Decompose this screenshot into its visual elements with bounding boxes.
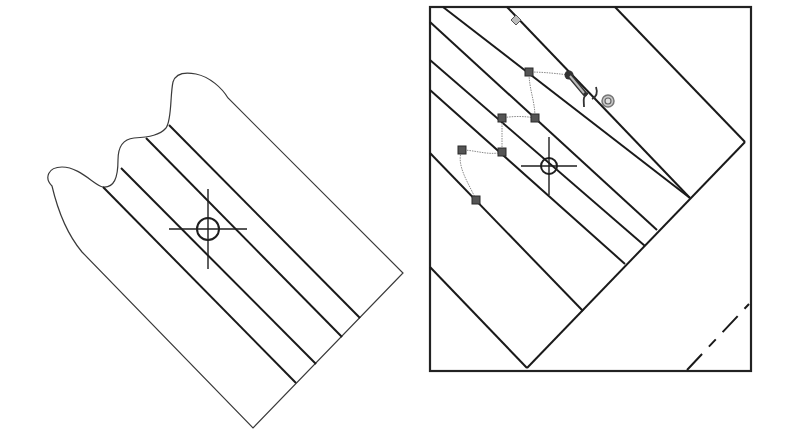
outer-edge (430, 267, 527, 368)
control-handle[interactable] (525, 68, 533, 76)
control-handle[interactable] (498, 148, 506, 156)
figure-stage: Original profile Sketch editing view (0, 0, 788, 440)
groove-line (121, 168, 316, 364)
groove-line (507, 7, 690, 198)
groove-line (430, 22, 657, 230)
concentric-relation-icon[interactable] (602, 95, 614, 107)
endpoint-diamond-icon[interactable] (511, 15, 521, 25)
groove-line (103, 187, 296, 383)
left-panel-profile (48, 73, 403, 428)
groove-lines (430, 7, 690, 311)
control-handles[interactable] (458, 68, 539, 204)
right-panel-edit-view (430, 7, 751, 371)
spline-segment[interactable] (529, 72, 569, 75)
spline-segment[interactable] (529, 72, 535, 118)
control-handle[interactable] (458, 146, 466, 154)
groove-lines (103, 125, 360, 383)
control-handle[interactable] (498, 114, 506, 122)
outer-edge (527, 142, 745, 368)
diagram-canvas (0, 0, 788, 440)
control-handle[interactable] (472, 196, 480, 204)
outer-edge (615, 7, 745, 142)
endpoint-diamond[interactable] (511, 15, 521, 25)
crosshair-icon (169, 189, 247, 269)
groove-line (146, 138, 342, 337)
spline-segment[interactable] (462, 150, 502, 153)
groove-line (430, 90, 625, 264)
spline-segment[interactable] (502, 117, 535, 119)
groove-line (430, 153, 583, 311)
outer-edges (430, 7, 745, 368)
control-handle[interactable] (531, 114, 539, 122)
profile-outline (48, 73, 403, 428)
dashed-edge (687, 304, 749, 370)
concentric-inner (605, 98, 611, 104)
pencil-cursor-icon (565, 71, 586, 95)
groove-line (169, 125, 360, 318)
